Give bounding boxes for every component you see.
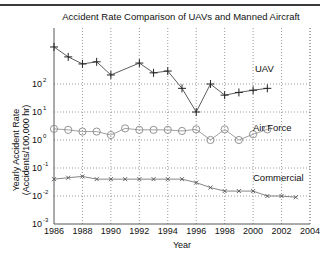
plus-marker-icon <box>78 60 86 68</box>
x-tick-label: 2002 <box>272 226 292 236</box>
accident-rate-chart: Accident Rate Comparison of UAVs and Man… <box>0 0 330 256</box>
series-labels: UAVAir ForceCommercial <box>253 63 304 183</box>
x-tick-label: 1996 <box>186 226 206 236</box>
y-axis-label-line1: Yearly Accident Rate <box>11 109 21 192</box>
y-tick-exponent: -2 <box>43 189 49 195</box>
x-tick-label: 1998 <box>215 226 235 236</box>
plus-marker-icon <box>192 108 200 116</box>
series-label: UAV <box>255 63 274 74</box>
y-tick-exponent: 1 <box>43 105 47 111</box>
y-axis-label-line2: (Accidents/100,000 hr) <box>21 105 31 196</box>
x-tick-label: 1990 <box>101 226 121 236</box>
series-label: Air Force <box>253 122 292 133</box>
y-tick-label: 10 <box>32 163 42 173</box>
plus-marker-icon <box>249 86 257 94</box>
plus-marker-icon <box>64 53 72 61</box>
plus-marker-icon <box>135 59 143 67</box>
y-tick-label: 10 <box>32 79 42 89</box>
series-uav <box>50 43 271 116</box>
y-tick-label: 10 <box>32 191 42 201</box>
x-tick-label: 1988 <box>72 226 92 236</box>
plus-marker-icon <box>235 88 243 96</box>
series-air-force <box>50 125 271 144</box>
plus-marker-icon <box>50 43 58 51</box>
x-tick-label: 2004 <box>300 226 320 236</box>
y-tick-exponent: 0 <box>43 133 47 139</box>
chart-title: Accident Rate Comparison of UAVs and Man… <box>62 11 300 22</box>
series-line <box>54 47 267 112</box>
x-axis-label: Year <box>173 240 191 250</box>
y-tick-label: 10 <box>32 219 42 229</box>
y-tick-label: 10 <box>32 135 42 145</box>
plus-marker-icon <box>150 69 158 77</box>
y-tick-exponent: 2 <box>43 77 47 83</box>
series-label: Commercial <box>253 172 304 183</box>
x-tick-label: 1994 <box>158 226 178 236</box>
y-tick-exponent: -3 <box>43 217 49 223</box>
y-axis-label: Yearly Accident Rate (Accidents/100,000 … <box>11 105 31 196</box>
plus-marker-icon <box>221 91 229 99</box>
y-tick-exponent: -1 <box>43 161 49 167</box>
y-tick-label: 10 <box>32 107 42 117</box>
x-tick-label: 1986 <box>44 226 64 236</box>
x-tick-label: 1992 <box>129 226 149 236</box>
plus-marker-icon <box>263 84 271 92</box>
plus-marker-icon <box>206 80 214 88</box>
x-tick-label: 2000 <box>243 226 263 236</box>
